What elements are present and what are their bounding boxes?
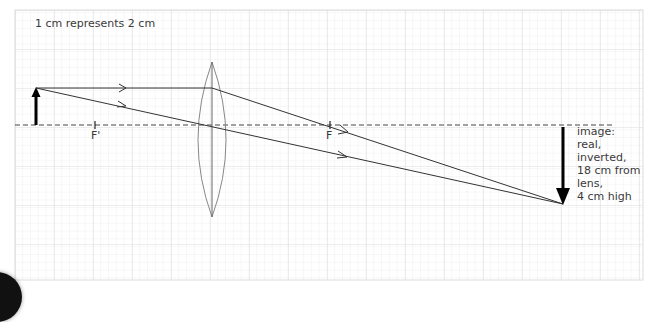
image-description-line: image: — [577, 125, 651, 138]
image-description: image: real, inverted, 18 cm from lens, … — [577, 125, 651, 203]
image-description-line: real, — [577, 138, 651, 151]
scale-label: 1 cm represents 2 cm — [35, 17, 155, 30]
image-description-line: lens, — [577, 177, 651, 190]
grid-paper — [15, 10, 643, 280]
focal-point-near-label: F' — [91, 129, 100, 142]
focal-point-far-label: F — [326, 129, 332, 142]
image-description-line: 4 cm high — [577, 190, 651, 203]
image-description-line: inverted, — [577, 151, 651, 164]
image-description-line: 18 cm from — [577, 164, 651, 177]
